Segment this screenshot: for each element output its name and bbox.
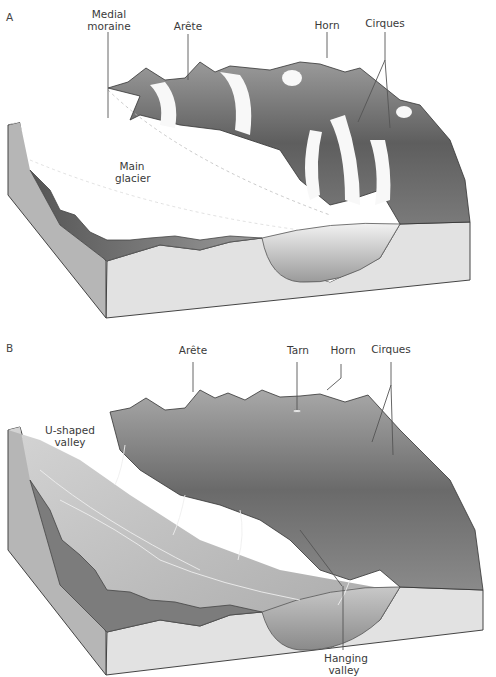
label-main-glacier: Main glacier bbox=[115, 160, 149, 184]
label-hanging-valley: Hanging valley bbox=[324, 652, 364, 676]
panel-a: A Medial moraine Arête Horn Cirques Main… bbox=[0, 0, 496, 330]
label-medial-moraine: Medial moraine bbox=[87, 8, 131, 32]
label-cirques-b: Cirques bbox=[368, 343, 414, 355]
glacial-block-diagram-b bbox=[0, 330, 496, 677]
label-horn-a: Horn bbox=[310, 19, 344, 31]
panel-b: B Arête Tarn Horn Cirques U-shaped valle… bbox=[0, 330, 496, 677]
panel-letter-b: B bbox=[6, 342, 13, 354]
label-cirques-a: Cirques bbox=[362, 17, 408, 29]
label-tarn: Tarn bbox=[283, 344, 313, 356]
label-arete-a: Arête bbox=[170, 20, 206, 32]
label-arete-b: Arête bbox=[175, 344, 211, 356]
label-horn-b: Horn bbox=[326, 344, 360, 356]
glacial-block-diagram-a bbox=[0, 0, 496, 330]
label-u-shaped-valley: U-shaped valley bbox=[45, 424, 95, 448]
panel-letter-a: A bbox=[6, 11, 13, 23]
